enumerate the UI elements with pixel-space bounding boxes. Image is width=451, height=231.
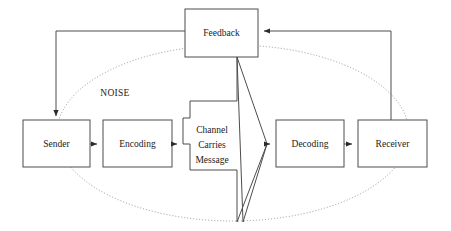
node-decoding-label: Decoding — [292, 139, 329, 149]
edge-receiver-to-feedback — [264, 31, 391, 120]
node-feedback-label: Feedback — [203, 28, 240, 38]
node-channel-label-line2: Carries — [198, 140, 226, 150]
communication-model-diagram: Sender Encoding Channel Carries Message … — [0, 0, 451, 231]
edge-feedback-to-sender — [56, 31, 185, 116]
noise-label: NOISE — [100, 88, 129, 98]
node-encoding-label: Encoding — [119, 139, 156, 149]
node-channel-label-line1: Channel — [196, 125, 228, 135]
diagram-canvas: Sender Encoding Channel Carries Message … — [0, 0, 451, 231]
node-sender-label: Sender — [43, 139, 70, 149]
node-receiver-label: Receiver — [376, 139, 411, 149]
node-channel-label-line3: Message — [195, 155, 228, 165]
